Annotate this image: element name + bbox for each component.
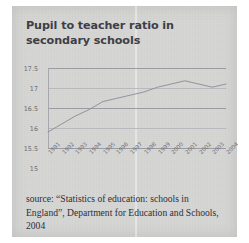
chart-title: Pupil to teacher ratio in secondary scho… <box>26 18 226 48</box>
document-page: Pupil to teacher ratio in secondary scho… <box>12 6 237 237</box>
plot-area <box>48 68 226 148</box>
source-note: source: “Statistics of education: school… <box>26 192 222 233</box>
y-tick-label-1: 17 <box>4 85 38 93</box>
y-tick-label-4: 15.5 <box>4 145 38 153</box>
y-tick-label-5: 15 <box>4 165 38 173</box>
data-series-line <box>48 68 226 148</box>
x-tick-label-2004: 2004 <box>225 141 239 155</box>
line-chart: 17.5 17 16.5 16 15.5 15 1991199219931994… <box>26 58 226 183</box>
y-tick-label-0: 17.5 <box>4 65 38 73</box>
y-tick-label-3: 16 <box>4 125 38 133</box>
y-tick-label-2: 16.5 <box>4 105 38 113</box>
